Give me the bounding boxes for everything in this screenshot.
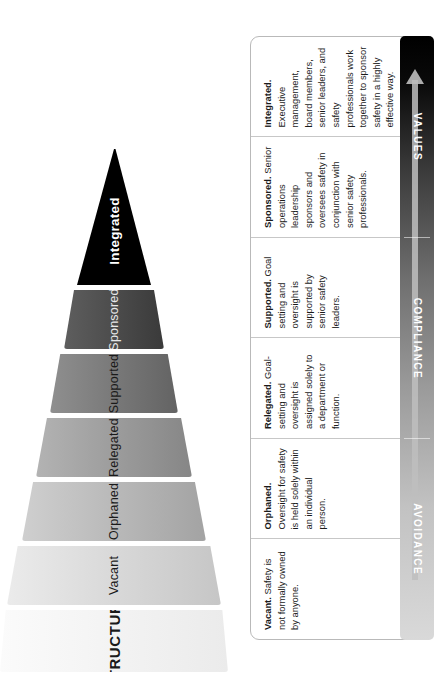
- funnel-segment-orphaned: Orphaned: [22, 482, 206, 541]
- description-text-orphaned: Oversight for safety is held solely with…: [276, 448, 328, 529]
- funnel-label-integrated: Integrated: [77, 163, 151, 299]
- description-sponsored: Sponsored. Senior operations leadership …: [251, 137, 424, 238]
- funnel-label-sponsored: Sponsored: [64, 290, 164, 349]
- description-term-sponsored: Sponsored.: [262, 176, 273, 228]
- description-panel: Vacant. Safety is not formally owned by …: [250, 36, 425, 640]
- funnel-segment-relegated: Relegated: [36, 418, 192, 477]
- description-text-relegated: Goal-setting and oversight is assigned s…: [262, 354, 341, 429]
- funnel-label-vacant: Vacant: [7, 546, 221, 605]
- description-term-supported: Supported.: [262, 279, 273, 328]
- bar-segment-compliance: COMPLIANCE: [400, 238, 434, 439]
- bar-label-values: VALUES: [412, 113, 423, 161]
- funnel-segment-integrated: Integrated: [77, 149, 151, 285]
- bar-segment-values: VALUES: [400, 36, 434, 238]
- description-term-orphaned: Orphaned.: [262, 483, 273, 530]
- description-relegated: Relegated. Goal-setting and oversight is…: [251, 338, 424, 439]
- maturity-progression-bar: AVOIDANCE COMPLIANCE VALUES: [400, 36, 434, 640]
- description-supported: Supported. Goal setting and oversight is…: [251, 237, 424, 338]
- description-vacant: Vacant. Safety is not formally owned by …: [251, 539, 424, 640]
- description-term-integrated: Integrated.: [262, 80, 273, 128]
- funnel-header-label: STRUCTURE: [0, 610, 228, 672]
- description-text-supported: Goal setting and oversight is supported …: [262, 257, 341, 329]
- bar-label-avoidance: AVOIDANCE: [412, 504, 423, 576]
- bar-label-compliance: COMPLIANCE: [412, 298, 423, 379]
- description-term-vacant: Vacant.: [262, 597, 273, 630]
- funnel-segment-supported: Supported: [50, 354, 178, 413]
- funnel-label-orphaned: Orphaned: [22, 482, 206, 541]
- funnel-segment-structure: STRUCTURE: [0, 610, 228, 672]
- infographic-stage: STRUCTURE Vacant Orphaned Relegated Supp…: [0, 0, 443, 676]
- funnel-segment-vacant: Vacant: [7, 546, 221, 605]
- description-integrated: Integrated. Executive management, board …: [251, 37, 424, 137]
- funnel-label-supported: Supported: [50, 354, 178, 413]
- description-text-integrated: Executive management, board members, sen…: [276, 47, 396, 128]
- bar-segment-avoidance: AVOIDANCE: [400, 439, 434, 640]
- description-orphaned: Orphaned. Oversight for safety is held s…: [251, 438, 424, 539]
- description-text-sponsored: Senior operations leadership sponsors an…: [262, 147, 368, 228]
- funnel-label-relegated: Relegated: [36, 418, 192, 477]
- maturity-funnel: STRUCTURE Vacant Orphaned Relegated Supp…: [0, 0, 228, 676]
- description-term-relegated: Relegated.: [262, 382, 273, 429]
- funnel-segment-sponsored: Sponsored: [64, 290, 164, 349]
